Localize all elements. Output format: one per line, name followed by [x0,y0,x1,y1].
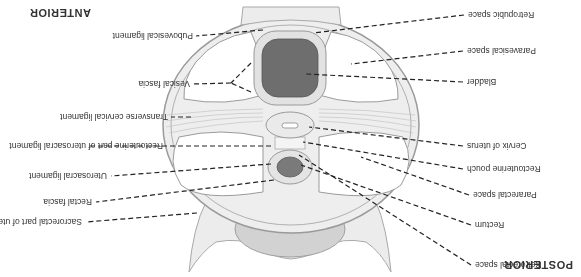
label-retrorectal-space: Retrorectal space [475,260,542,270]
label-rectouterine-part: Rectouterine part of uterosacral ligamen… [9,141,163,151]
anatomy-illustration [0,0,581,277]
left-paravesical-space [319,32,398,102]
right-pararectal-space [173,132,263,196]
label-cervix-of-uterus: Cervix of uterus [467,141,527,151]
label-rectal-fascia: Rectal fascia [43,197,92,207]
label-uterosacral-ligament: Uterosacral ligament [29,171,107,181]
left-pararectal-space [319,132,409,196]
label-rectouterine-pouch: Rectouterine pouch [467,164,541,174]
label-vesical-fascia: Vesical fascia [139,79,191,89]
bladder [262,39,318,97]
label-transverse-cervical: Transverse cervical ligament [60,112,168,122]
label-pararectal-space: Pararectal space [473,190,537,200]
rectum [277,157,303,177]
label-bladder: Bladder [467,77,496,87]
label-rectum: Rectum [475,220,504,230]
label-paravesical-space: Paravesical space [467,46,536,56]
label-retropubic-space: Retropubic space [468,10,534,20]
cervical-canal [282,123,298,128]
rectouterine-pouch [275,137,305,149]
label-pubovesical-ligament: Pubovesical ligament [113,31,193,41]
pelvic-cross-section-diagram: POSTERIOR ANTERIOR Retrorectal space Rec… [0,0,581,277]
orientation-anterior: ANTERIOR [30,7,91,19]
label-sacrorectal-part: Sacrorectal part of uterosacral ligament [0,217,82,227]
